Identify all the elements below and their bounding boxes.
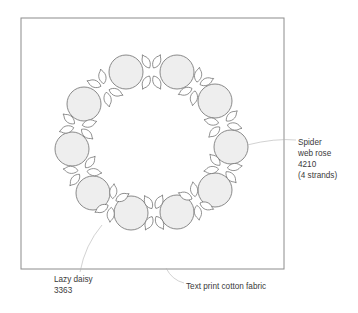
rose-label-line-1: Spider [298, 137, 337, 148]
spider-web-rose [67, 87, 101, 121]
daisy-label-line-1: Lazy daisy [54, 274, 93, 285]
lazy-daisy-petal [63, 165, 79, 174]
leader-line-rose [247, 140, 296, 145]
lazy-daisy-petal [87, 168, 103, 177]
spider-web-rose [55, 132, 89, 166]
lazy-daisy-petal [193, 67, 203, 83]
rose-label-line-2: web rose [298, 148, 337, 159]
rose-label-line-4: (4 strands) [298, 170, 337, 181]
lazy-daisy-petal [193, 205, 202, 221]
spider-web-rose [109, 55, 143, 89]
fabric-label: Text print cotton fabric [186, 281, 266, 292]
rose-label-line-3: 4210 [298, 159, 337, 170]
leader-line-fabric [166, 268, 184, 283]
leader-line-daisy [80, 225, 102, 272]
spider-web-rose [198, 84, 232, 118]
lazy-daisy-petal [106, 207, 115, 223]
daisy-label-line-2: 3363 [54, 285, 93, 296]
fabric-label-line-1: Text print cotton fabric [186, 281, 266, 292]
lazy-daisy-label: Lazy daisy 3363 [54, 274, 93, 296]
lazy-daisy-petal [189, 181, 198, 197]
lazy-daisy-petal [189, 90, 199, 106]
lazy-daisy-petal [109, 183, 118, 199]
spider-web-rose [160, 55, 194, 89]
spider-web-rose-label: Spider web rose 4210 (4 strands) [298, 137, 337, 181]
